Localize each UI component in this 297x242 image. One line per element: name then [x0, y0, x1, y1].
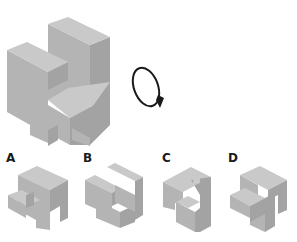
option-a-figure[interactable] [8, 166, 68, 230]
option-c-label[interactable]: C [162, 151, 171, 165]
option-c-figure[interactable] [163, 167, 211, 232]
option-d-label[interactable]: D [228, 151, 238, 165]
option-b-figure[interactable] [85, 163, 143, 228]
option-b-label[interactable]: B [83, 151, 92, 165]
puzzle-canvas [0, 0, 297, 242]
option-d-figure[interactable] [230, 166, 287, 232]
clockwise-rotation-arrow-icon [128, 64, 164, 110]
option-a-label[interactable]: A [6, 151, 15, 165]
main-3d-figure [7, 17, 110, 146]
